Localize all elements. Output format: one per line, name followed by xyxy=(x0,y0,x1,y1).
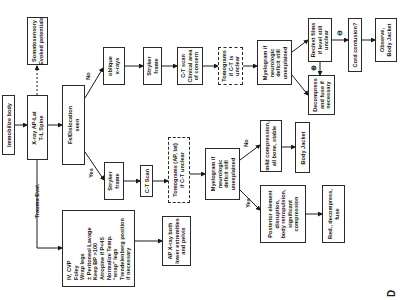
node-label: Myelogram if neurologic deficit still un… xyxy=(261,45,287,80)
node-label: Observe, Body Jacket xyxy=(379,24,392,57)
edge-label-yes: Yes xyxy=(88,168,94,178)
node-label: Fx/Dislocation seen xyxy=(67,106,80,144)
node-label: X-ray AP-Lat T-L Spine xyxy=(31,111,44,144)
node-ap-xray-pelvis: AP X-ray both lower extremities and pelv… xyxy=(162,216,191,266)
node-label: Body Jacket xyxy=(299,131,306,164)
node-label: Cord contusion? xyxy=(352,23,359,68)
node-label: Posterior element disruption, body retro… xyxy=(267,189,300,238)
node-observe-body-jacket: Observe, Body Jacket xyxy=(375,18,397,62)
node-label: IV, CVP Foley Wrap legs ± Peritoneal Lav… xyxy=(66,218,132,280)
node-ct-top: C-T scan Clinical area of concern xyxy=(177,47,203,85)
node-label: Decompress and fuse if necessary xyxy=(312,78,332,112)
node-label: Rec/ext films if level still unclear xyxy=(310,23,330,58)
figure-label: D xyxy=(386,290,397,297)
node-oblique-xrays: oblique x-rays xyxy=(103,47,125,85)
node-trauma-eval-box: IV, CVP Foley Wrap legs ± Peritoneal Lav… xyxy=(62,210,135,287)
node-label: Stryker frame xyxy=(146,56,159,75)
node-tomograms-bottom: Tomograms (AP, lat) if C-T unclear xyxy=(168,137,190,203)
plus-icon: ⊕ xyxy=(310,65,318,71)
node-label: C-T scan Clinical area of concern xyxy=(180,50,200,83)
node-label: mild compression, all bone, stable xyxy=(264,121,277,170)
node-label: Immobilize body xyxy=(5,103,12,147)
minus-icon: ⊖ xyxy=(336,30,344,36)
edge-label-no: No xyxy=(85,72,91,79)
edge-label-trauma-eval: Trauma Eval. xyxy=(34,184,40,219)
node-stryker-bottom: Stryker frame xyxy=(104,162,124,200)
node-somatosensory: Somatosensory Evoked potentials xyxy=(27,17,48,65)
node-myelogram-bottom: Myelogram if neurologic deficit still un… xyxy=(205,148,240,200)
node-decompress-fuse: Decompress and fuse if necessary xyxy=(308,75,335,115)
node-mild-compression: mild compression, all bone, stable xyxy=(260,120,282,172)
node-immobilize-body: Immobilize body xyxy=(2,95,15,155)
node-body-jacket: Body Jacket xyxy=(295,122,310,173)
node-label: Myelogram if neurologic deficit still un… xyxy=(209,157,235,192)
node-label: Tomograms if C-T is unclear xyxy=(221,50,241,82)
node-rec-ext-films: Rec/ext films if level still unclear xyxy=(308,18,332,62)
node-label: C-T Scan xyxy=(143,169,150,193)
node-red-decompress-fuse: Red., decompress, fuse xyxy=(322,185,345,243)
edge-label-no-myelo: No xyxy=(243,139,249,146)
node-posterior-element: Posterior element disruption, body retro… xyxy=(260,185,306,243)
node-myelogram-top: Myelogram if neurologic deficit still un… xyxy=(257,40,292,85)
node-fx-dislocation: Fx/Dislocation seen xyxy=(62,85,85,165)
node-tomograms-top: Tomograms if C-T is unclear xyxy=(218,47,243,85)
node-ct-scan-bottom: C-T Scan xyxy=(140,165,153,197)
node-xray-ap-lat: X-ray AP-Lat T-L Spine xyxy=(27,95,48,160)
edge-label-yes-myelo: Yes xyxy=(245,198,251,208)
node-label: Red., decompress, fuse xyxy=(327,189,340,239)
node-stryker-top: Stryker frame xyxy=(143,47,162,85)
node-label: oblique x-rays xyxy=(107,56,120,76)
node-label: Tomograms (AP, lat) if C-T unclear xyxy=(172,143,185,197)
node-label: Somatosensory Evoked potentials xyxy=(31,17,44,65)
node-label: Stryker frame xyxy=(107,171,120,190)
node-cord-contusion: Cord contusion? xyxy=(348,18,362,72)
node-label: AP X-ray both lower extremities and pelv… xyxy=(167,218,187,264)
